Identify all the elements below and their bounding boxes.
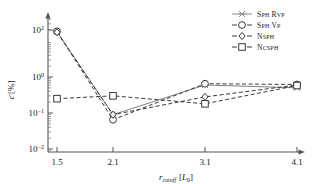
y-axis-arrow bbox=[45, 12, 50, 19]
legend-label: SPH VP bbox=[257, 21, 281, 30]
legend-entry-ncsph[interactable]: NCSPH bbox=[232, 43, 279, 52]
series-nsph bbox=[54, 29, 300, 119]
x-tick-label: 3.1 bbox=[199, 157, 210, 167]
x-axis-arrow bbox=[299, 149, 306, 154]
y-tick-label: 10−2 bbox=[29, 144, 44, 154]
legend-label: NCSPH bbox=[257, 43, 279, 52]
square-icon bbox=[239, 44, 246, 51]
legend-label: NSPH bbox=[257, 32, 275, 41]
y-major-ticks bbox=[48, 30, 53, 149]
x-tick-label: 4.1 bbox=[291, 157, 302, 167]
x-tick-label: 1.5 bbox=[51, 157, 63, 167]
x-axis-title: rcutoff[L0] bbox=[159, 172, 193, 183]
x-ticks bbox=[57, 147, 297, 152]
square-marker bbox=[110, 93, 117, 100]
x-tick-labels: 1.5 2.1 3.1 4.1 bbox=[51, 157, 302, 167]
circle-marker bbox=[202, 80, 209, 87]
circle-icon bbox=[239, 22, 246, 29]
square-marker bbox=[294, 82, 301, 89]
series-sph-vp bbox=[54, 28, 301, 123]
legend-label: SPH RVP bbox=[257, 10, 285, 19]
plot-area bbox=[54, 28, 301, 123]
series-sph-rvp bbox=[54, 29, 301, 118]
diamond-marker bbox=[202, 93, 208, 100]
y-tick-label: 100 bbox=[32, 72, 44, 82]
square-marker bbox=[202, 101, 209, 108]
y-tick-labels: 102 100 10−1 10−2 bbox=[29, 25, 44, 154]
y-tick-label: 10−1 bbox=[29, 108, 44, 118]
y-axis-title: ε̄[%] bbox=[6, 80, 16, 99]
star-icon bbox=[239, 11, 246, 17]
svg-text:rcutoff[L0]: rcutoff[L0] bbox=[159, 172, 193, 183]
legend-entry-sph-vp[interactable]: SPH VP bbox=[232, 21, 281, 30]
series-ncsph bbox=[54, 82, 301, 107]
legend-entry-nsph[interactable]: NSPH bbox=[232, 32, 275, 41]
x-tick-label: 2.1 bbox=[107, 157, 118, 167]
chart-svg: 102 100 10−1 10−2 1.5 2.1 3.1 4.1 ε̄[%] … bbox=[0, 0, 317, 184]
square-marker bbox=[54, 95, 61, 102]
svg-text:ε̄[%]: ε̄[%] bbox=[6, 80, 16, 99]
legend-entry-sph-rvp[interactable]: SPH RVP bbox=[232, 10, 285, 19]
diamond-icon bbox=[239, 32, 245, 39]
figure-container: 102 100 10−1 10−2 1.5 2.1 3.1 4.1 ε̄[%] … bbox=[0, 0, 317, 184]
legend: SPH RVP SPH VP NSPH NCSPH bbox=[232, 10, 285, 52]
y-tick-label: 102 bbox=[32, 25, 44, 35]
